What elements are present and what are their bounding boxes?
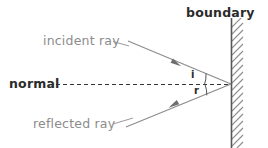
reflected-ray-arrowhead xyxy=(169,100,180,108)
normal-label: normal xyxy=(9,78,60,91)
reflected-label-leader xyxy=(113,118,133,124)
incident-ray-label: incident ray xyxy=(43,35,120,48)
angle-of-incidence-label: i xyxy=(191,70,194,80)
boundary-hatching xyxy=(232,16,243,148)
reflected-ray-line xyxy=(126,84,231,127)
reflection-diagram-canvas: boundary incident ray normal reflected r… xyxy=(0,0,268,148)
reflected-ray-label: reflected ray xyxy=(33,118,115,131)
angle-i-arc xyxy=(205,73,207,84)
angle-of-reflection-label: r xyxy=(194,86,199,96)
incident-ray-line xyxy=(128,41,231,84)
boundary-label: boundary xyxy=(186,7,255,20)
